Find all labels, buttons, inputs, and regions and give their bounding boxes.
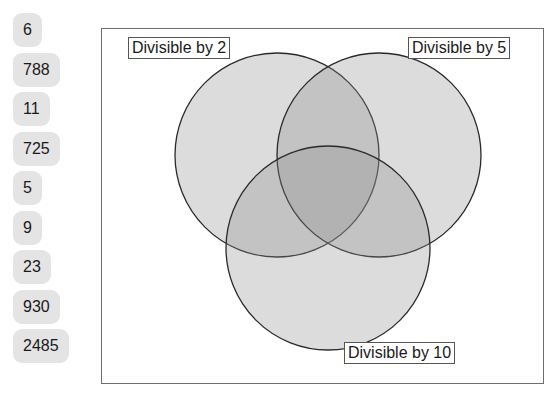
venn-diagram (0, 0, 552, 408)
venn-label-divisible-by-5: Divisible by 5 (408, 37, 510, 59)
venn-label-divisible-by-10: Divisible by 10 (344, 342, 455, 364)
venn-circle-divisible-by-10[interactable] (226, 146, 430, 350)
venn-label-divisible-by-2: Divisible by 2 (128, 37, 230, 59)
